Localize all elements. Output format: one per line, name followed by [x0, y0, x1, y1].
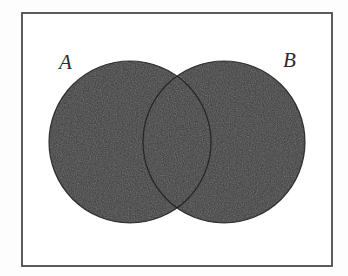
set-b-fill [143, 61, 305, 223]
set-label-a: A [59, 52, 72, 73]
venn-diagram-canvas [0, 0, 348, 276]
venn-diagram-figure: A B [0, 0, 348, 276]
shaded-union-region [49, 61, 305, 223]
set-label-b: B [283, 50, 296, 71]
